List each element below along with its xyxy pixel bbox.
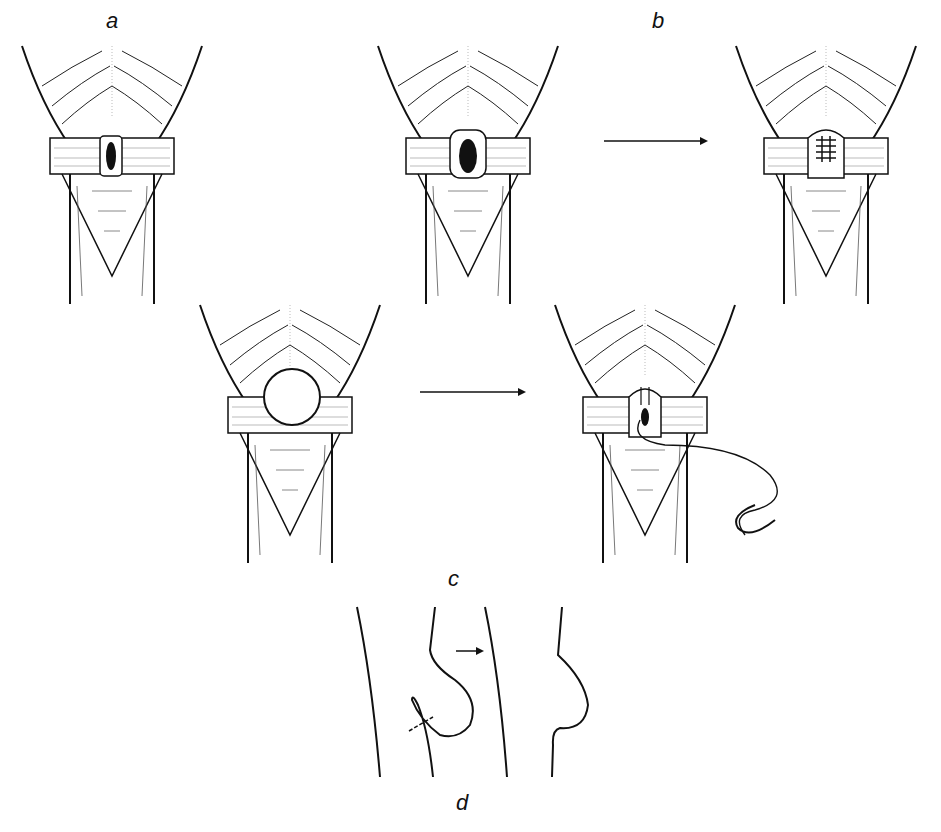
arrow-c — [420, 388, 526, 396]
panel-a-torso — [22, 46, 202, 304]
arrow-b — [604, 137, 708, 145]
ligation-mark — [409, 717, 433, 731]
panel-b1-torso — [378, 46, 558, 304]
panel-d-schematic — [357, 607, 588, 777]
arrow-d — [456, 647, 484, 655]
illustration-canvas — [0, 0, 941, 832]
panel-b2-torso — [736, 46, 916, 304]
panel-c2-torso — [555, 305, 735, 563]
panel-c1-torso — [200, 305, 380, 563]
